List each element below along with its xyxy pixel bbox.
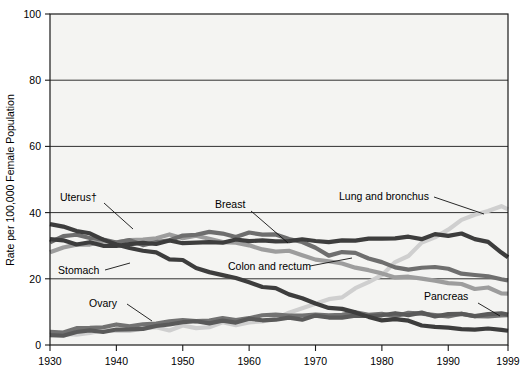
x-tick-label-1980: 1980: [370, 355, 394, 367]
series-label-ovary: Ovary: [89, 297, 118, 309]
x-axis-tick-labels: 19301940195019601970198019901999: [38, 355, 520, 367]
x-axis-ticks: [50, 345, 508, 351]
y-axis-ticks: [45, 14, 50, 345]
series-label-pancreas: Pancreas: [424, 290, 468, 302]
series-label-stomach: Stomach: [58, 264, 100, 276]
series-label-breast: Breast: [215, 198, 245, 210]
series-label-uterus: Uterus†: [60, 191, 97, 203]
series-label-colon: Colon and rectum: [228, 260, 311, 272]
x-tick-label-1960: 1960: [237, 355, 261, 367]
chart-svg: 020406080100 193019401950196019701980199…: [0, 0, 524, 382]
y-tick-label-100: 100: [23, 8, 41, 20]
y-axis-tick-labels: 020406080100: [23, 8, 41, 351]
x-tick-label-1970: 1970: [304, 355, 328, 367]
y-tick-label-0: 0: [35, 339, 41, 351]
x-tick-label-1930: 1930: [38, 355, 62, 367]
y-axis-title: Rate per 100,000 Female Population: [4, 94, 16, 266]
x-tick-label-1999: 1999: [496, 355, 520, 367]
x-tick-label-1950: 1950: [171, 355, 195, 367]
y-tick-label-60: 60: [29, 140, 41, 152]
cancer-mortality-line-chart: 020406080100 193019401950196019701980199…: [0, 0, 524, 382]
x-tick-label-1990: 1990: [437, 355, 461, 367]
y-tick-label-80: 80: [29, 74, 41, 86]
x-tick-label-1940: 1940: [105, 355, 129, 367]
y-tick-label-20: 20: [29, 273, 41, 285]
series-label-lung: Lung and bronchus: [339, 190, 429, 202]
y-tick-label-40: 40: [29, 207, 41, 219]
